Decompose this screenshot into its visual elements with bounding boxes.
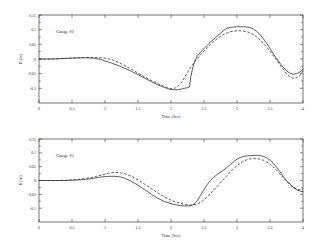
x-tick-label: 2: [170, 226, 172, 230]
x-axis-title: Time (Sec): [161, 114, 181, 119]
x-tick-label: 3: [236, 226, 238, 230]
panel-annotation: Gauge #2: [56, 29, 74, 34]
series-line-computed: [39, 31, 303, 89]
x-tick-label: 0: [38, 107, 40, 111]
x-tick-label: 3.5: [268, 226, 273, 230]
x-tick-label: 1.5: [136, 107, 141, 111]
x-tick-label: 1: [104, 107, 106, 111]
y-tick-label: 0.05: [29, 43, 36, 47]
y-tick-label: 0: [34, 179, 36, 183]
figure-canvas: 00.511.522.533.540.150.10.050-0.05-0.1Ti…: [0, 0, 316, 252]
y-tick-label: 0.15: [29, 14, 36, 18]
chart-panel-1: 00.511.522.533.540.150.10.050-0.05-0.1Ti…: [18, 14, 304, 120]
series-line-measured: [39, 155, 303, 206]
x-tick-label: 2.5: [202, 107, 207, 111]
chart-panel-2: 00.511.522.533.540.150.10.050-0.05-0.1Ti…: [18, 138, 304, 239]
x-tick-label: 4: [302, 226, 304, 230]
series-line-computed: [39, 159, 303, 205]
y-tick-label: -0.1: [30, 87, 36, 91]
y-tick-label: 0.1: [31, 28, 36, 32]
x-tick-label: 0: [38, 226, 40, 230]
x-tick-label: 2.5: [202, 226, 207, 230]
x-tick-label: 3: [236, 107, 238, 111]
x-axis-title: Time (Sec): [161, 233, 181, 238]
dual-panel-line-chart: 00.511.522.533.540.150.10.050-0.05-0.1Ti…: [0, 0, 316, 252]
panel-annotation: Gauge #5: [56, 153, 74, 158]
series-line-measured: [39, 27, 303, 90]
y-tick-label: -0.05: [28, 72, 36, 76]
x-tick-label: 1.5: [136, 226, 141, 230]
y-tick-label: 0.05: [29, 165, 36, 169]
x-tick-label: 0.5: [70, 107, 75, 111]
x-tick-label: 2: [170, 107, 172, 111]
y-axis-title: R (in): [18, 53, 23, 64]
plot-frame: [39, 139, 303, 222]
x-tick-label: 3.5: [268, 107, 273, 111]
y-tick-label: 0.1: [31, 151, 36, 155]
y-axis-title: R (in): [18, 175, 23, 186]
y-tick-label: 0.15: [29, 138, 36, 142]
x-tick-label: 4: [302, 107, 304, 111]
y-tick-label: 0: [34, 58, 36, 62]
y-tick-label: -0.1: [30, 207, 36, 211]
y-tick-label: -0.05: [28, 193, 36, 197]
x-tick-label: 1: [104, 226, 106, 230]
x-tick-label: 0.5: [70, 226, 75, 230]
